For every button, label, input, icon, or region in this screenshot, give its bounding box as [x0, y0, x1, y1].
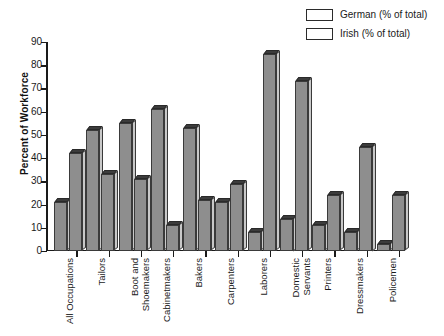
legend-swatch-german-icon: [306, 9, 333, 21]
y-tick-label: 10: [31, 221, 42, 234]
x-axis-label: Printers: [323, 258, 334, 336]
bar-top-face: [134, 175, 150, 179]
x-axis-label: Boot and Shoemakers: [130, 258, 151, 336]
x-tick-mark: [302, 251, 303, 257]
bar: [198, 200, 211, 251]
bar: [344, 232, 357, 251]
bar: [134, 179, 147, 251]
bar-front-face: [230, 184, 243, 251]
bar-front-face: [377, 244, 390, 251]
x-tick-mark: [334, 251, 335, 257]
bar: [86, 130, 99, 251]
y-tick-label: 50: [31, 128, 42, 141]
bar-front-face: [312, 225, 325, 251]
legend-item-irish: Irish (% of total): [306, 25, 442, 42]
y-tick-label: 60: [31, 105, 42, 118]
x-tick-mark: [367, 251, 368, 257]
bar: [69, 153, 82, 251]
bar: [392, 195, 405, 251]
bar-side-face: [405, 192, 409, 251]
bar-front-face: [134, 179, 147, 251]
bar-front-face: [392, 195, 405, 251]
bar: [248, 232, 261, 251]
legend-label-irish: Irish (% of total): [340, 28, 410, 40]
bar: [230, 184, 243, 251]
bar: [295, 81, 308, 251]
bar-front-face: [119, 123, 132, 251]
x-axis-label: Dressmakers: [355, 258, 366, 336]
y-tick-label: 20: [31, 198, 42, 211]
bar: [119, 123, 132, 251]
y-axis-title: Percent of Workforce: [19, 59, 30, 189]
legend-label-german: German (% of total): [340, 9, 427, 21]
x-axis-label: Bakers: [194, 258, 205, 336]
bar: [215, 202, 228, 251]
bar: [327, 195, 340, 251]
bar-front-face: [248, 232, 261, 251]
y-tick-label: 80: [31, 58, 42, 71]
y-tick-label: 0: [36, 244, 42, 257]
bar-front-face: [263, 54, 276, 251]
bar: [151, 109, 164, 251]
x-axis-labels: All OccupationsTailorsBoot and Shoemaker…: [46, 258, 401, 336]
bar: [54, 202, 67, 251]
legend-item-german: German (% of total): [306, 6, 442, 23]
bar-front-face: [183, 128, 196, 251]
x-tick-mark: [173, 251, 174, 257]
bar-front-face: [344, 232, 357, 251]
x-axis-label: Cabinetmakers: [162, 258, 173, 336]
y-tick-label: 70: [31, 81, 42, 94]
bar: [263, 54, 276, 251]
bar-front-face: [359, 147, 372, 252]
bar-front-face: [69, 153, 82, 251]
x-axis-label: All Occupations: [65, 258, 76, 336]
bar-front-face: [166, 225, 179, 251]
bar: [183, 128, 196, 251]
bar-top-face: [119, 119, 135, 123]
bar-front-face: [280, 219, 293, 252]
chart-legend: German (% of total) Irish (% of total): [306, 6, 442, 44]
bar: [377, 244, 390, 251]
x-axis-label: Tailors: [97, 258, 108, 336]
bar-front-face: [151, 109, 164, 251]
legend-swatch-irish-icon: [306, 28, 333, 40]
bar: [280, 219, 293, 252]
y-tick-label: 90: [31, 35, 42, 48]
x-tick-mark: [399, 251, 400, 257]
plot-area: 0102030405060708090: [46, 42, 401, 251]
bar-front-face: [101, 174, 114, 251]
y-axis-line: [46, 42, 48, 251]
x-tick-mark: [141, 251, 142, 257]
y-tick-label: 40: [31, 151, 42, 164]
bar-front-face: [215, 202, 228, 251]
bar-front-face: [198, 200, 211, 251]
bar-chart: German (% of total) Irish (% of total) P…: [0, 0, 444, 336]
bar-side-face: [372, 143, 376, 251]
x-tick-mark: [109, 251, 110, 257]
bar-front-face: [327, 195, 340, 251]
bar: [359, 147, 372, 252]
bar: [101, 174, 114, 251]
bar-front-face: [54, 202, 67, 251]
y-tick-label: 30: [31, 174, 42, 187]
bar-front-face: [86, 130, 99, 251]
bar: [166, 225, 179, 251]
bar-top-face: [263, 50, 279, 54]
x-tick-mark: [205, 251, 206, 257]
bar: [312, 225, 325, 251]
x-axis-label: Carpenters: [226, 258, 237, 336]
x-axis-label: Policemen: [388, 258, 399, 336]
x-axis-label: Laborers: [259, 258, 270, 336]
x-axis-label: Domestic Servants: [291, 258, 312, 336]
bar-front-face: [295, 81, 308, 251]
x-tick-mark: [76, 251, 77, 257]
x-tick-mark: [238, 251, 239, 257]
x-tick-mark: [270, 251, 271, 257]
